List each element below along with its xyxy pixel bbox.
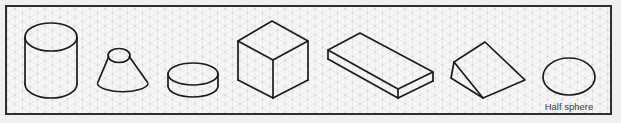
half-sphere-text: Half sphere (545, 101, 594, 112)
isometric-canvas: Half sphere (0, 0, 621, 123)
isometric-shapes-worksheet: Half sphere (0, 0, 621, 123)
